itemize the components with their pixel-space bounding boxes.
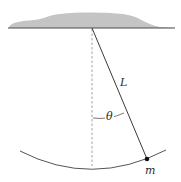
pendulum-diagram: L θ m [0, 0, 181, 182]
diagram-canvas [0, 0, 181, 182]
pendulum-mass [145, 157, 150, 162]
ceiling-support [9, 13, 175, 28]
pendulum-string [92, 28, 147, 159]
length-label: L [120, 77, 127, 88]
mass-label: m [145, 165, 155, 176]
angle-label: θ [105, 111, 114, 122]
